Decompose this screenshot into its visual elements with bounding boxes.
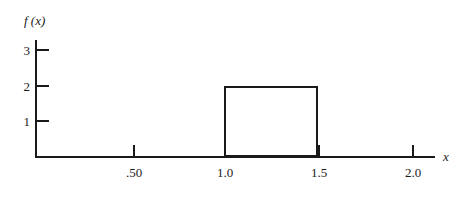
- y-tick-3: [37, 49, 49, 51]
- x-tick-label-150: 1.5: [296, 166, 342, 179]
- density-rectangle: [224, 86, 318, 157]
- y-tick-label-group: 3 2 1: [8, 0, 30, 197]
- y-tick-1: [37, 120, 49, 122]
- x-tick-200: [412, 145, 414, 157]
- x-axis-title: x: [443, 150, 449, 163]
- density-function-chart: f (x) x 3 2 1 .50 1.0 1.5 2.0: [0, 0, 462, 197]
- x-tick-150: [318, 145, 320, 157]
- y-tick-label-2: 2: [10, 80, 30, 93]
- y-tick-label-3: 3: [10, 44, 30, 57]
- x-tick-label-100: 1.0: [202, 166, 248, 179]
- x-tick-label-050: .50: [111, 166, 157, 179]
- y-tick-2: [37, 85, 49, 87]
- x-tick-050: [133, 145, 135, 157]
- x-tick-label-200: 2.0: [390, 166, 436, 179]
- y-axis-line: [35, 40, 37, 158]
- y-tick-label-1: 1: [10, 115, 30, 128]
